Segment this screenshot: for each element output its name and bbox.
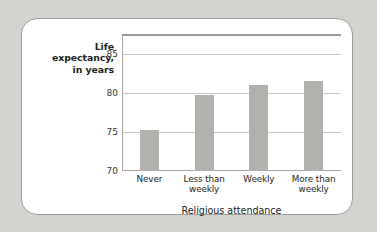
bar (249, 85, 268, 171)
x-axis-tick-label-line-2: weekly (285, 184, 343, 194)
y-axis-tick-label-70: 70 (107, 166, 118, 176)
y-axis-title-line-3: in years (42, 64, 114, 75)
x-axis-tick-label-line-1: Never (120, 174, 178, 184)
y-axis-title-line-2: expectancy, (42, 52, 114, 63)
x-axis-tick-label-line-2: weekly (175, 184, 233, 194)
y-axis-tick-label-75: 75 (107, 127, 118, 137)
bar (195, 95, 214, 171)
y-axis-tick-label-80: 80 (107, 88, 118, 98)
x-axis-tick-label: Weekly (230, 174, 288, 184)
plot-area: 70758085 NeverLess thanweeklyWeeklyMore … (122, 34, 341, 171)
y-axis-tick-label-85: 85 (107, 49, 118, 59)
bar (304, 81, 323, 171)
plot-top-rule (122, 34, 341, 36)
chart-card: Life expectancy, in years 70758085 Never… (21, 18, 353, 215)
x-axis-tick-label-line-1: Weekly (230, 174, 288, 184)
x-axis-tick-label: Never (120, 174, 178, 184)
bar (140, 130, 159, 171)
figure-root: Life expectancy, in years 70758085 Never… (0, 0, 377, 232)
x-axis-tick-label: More thanweekly (285, 174, 343, 195)
gridline-85 (122, 54, 341, 55)
y-axis-title: Life expectancy, in years (42, 41, 114, 75)
x-axis-tick-label-line-1: Less than (175, 174, 233, 184)
y-axis-title-line-1: Life (42, 41, 114, 52)
x-axis-tick-label: Less thanweekly (175, 174, 233, 195)
x-axis-tick-label-line-1: More than (285, 174, 343, 184)
x-axis-title: Religious attendance (122, 205, 341, 216)
